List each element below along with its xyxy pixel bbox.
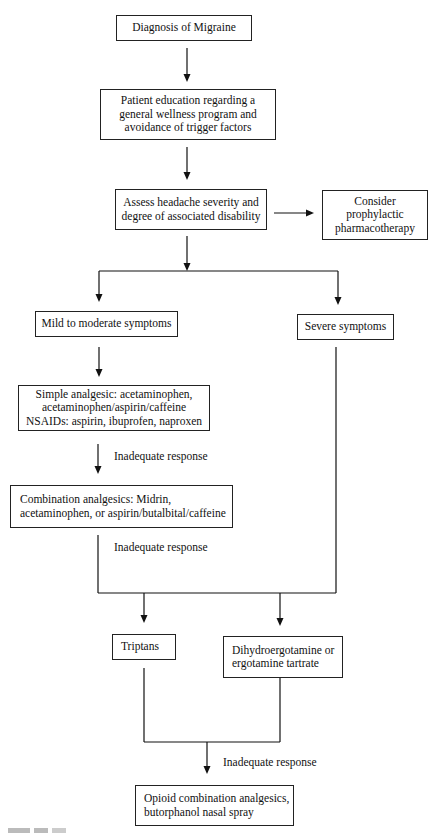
node-triptans-label: Triptans — [121, 640, 159, 654]
edge-label-inadequate-3: Inadequate response — [223, 756, 317, 768]
node-combination-analgesics-label: Combination analgesics: Midrin, acetamin… — [20, 493, 226, 520]
node-prophylactic-label: Consider prophylactic pharmacotherapy — [335, 195, 415, 236]
edge-label-inadequate-1: Inadequate response — [114, 450, 208, 462]
node-diagnosis-label: Diagnosis of Migraine — [132, 21, 235, 35]
node-dihydroergotamine: Dihydroergotamine or ergotamine tartrate — [223, 636, 343, 678]
node-simple-analgesic-label: Simple analgesic: acetaminophen, acetami… — [26, 388, 202, 429]
figure-caption-cropped — [8, 827, 68, 833]
node-opioid-combination-label: Opioid combination analgesics, butorphan… — [144, 792, 289, 819]
edge-label-inadequate-2: Inadequate response — [114, 541, 208, 553]
node-assess-severity: Assess headache severity and degree of a… — [115, 189, 267, 230]
node-diagnosis: Diagnosis of Migraine — [116, 15, 252, 41]
node-triptans: Triptans — [112, 634, 176, 660]
node-patient-education-label: Patient education regarding a general we… — [119, 94, 257, 135]
node-mild-moderate-label: Mild to moderate symptoms — [41, 317, 171, 331]
node-combination-analgesics: Combination analgesics: Midrin, acetamin… — [10, 485, 233, 528]
node-mild-moderate: Mild to moderate symptoms — [35, 311, 178, 337]
node-prophylactic: Consider prophylactic pharmacotherapy — [322, 190, 428, 240]
node-opioid-combination: Opioid combination analgesics, butorphan… — [135, 785, 294, 826]
node-severe: Severe symptoms — [297, 314, 394, 340]
node-patient-education: Patient education regarding a general we… — [100, 89, 276, 140]
node-assess-severity-label: Assess headache severity and degree of a… — [122, 196, 261, 223]
node-simple-analgesic: Simple analgesic: acetaminophen, acetami… — [18, 385, 210, 431]
node-severe-label: Severe symptoms — [305, 320, 386, 334]
node-dihydroergotamine-label: Dihydroergotamine or ergotamine tartrate — [232, 644, 334, 671]
